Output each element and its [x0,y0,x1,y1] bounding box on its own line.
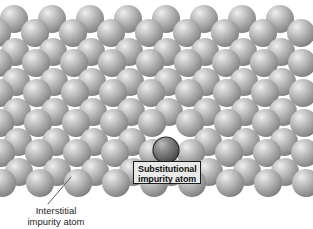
substitutional-callout-box: Substitutional impurity atom [133,161,201,184]
interstitial-callout-line-1: Interstitial [10,205,102,216]
interstitial-callout-line-2: impurity atom [10,216,102,227]
host-atom [216,169,244,197]
impurity-atom-circle [153,137,179,163]
substitutional-impurity-atom [153,137,179,163]
atom-lattice [0,0,313,229]
substitutional-callout-line-2: impurity atom [138,174,196,184]
host-atom [64,169,92,197]
lattice-figure: Substitutional impurity atom Interstitia… [0,0,313,229]
substitutional-callout-line-1: Substitutional [138,164,196,174]
host-atom [26,169,54,197]
host-atom [254,169,282,197]
host-atom [102,169,130,197]
interstitial-callout-label: Interstitial impurity atom [10,205,102,227]
